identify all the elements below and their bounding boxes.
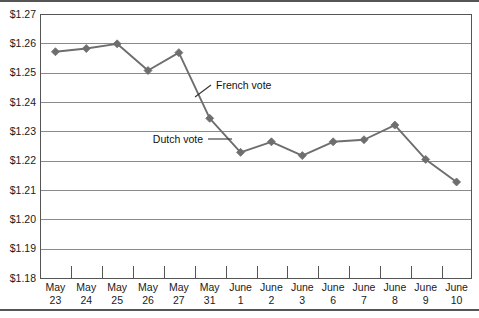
data-point-marker bbox=[360, 136, 368, 144]
x-tick-label-month: June bbox=[260, 281, 283, 293]
x-tick-label-day: 23 bbox=[50, 294, 62, 306]
data-point-marker bbox=[82, 45, 90, 53]
x-tick-label-month: May bbox=[200, 281, 221, 293]
y-tick-label: $1.25 bbox=[10, 66, 36, 78]
x-tick-label-day: 7 bbox=[361, 294, 367, 306]
y-axis-labels: $1.27 $1.26 $1.25 $1.24 $1.23 $1.22 $1.2… bbox=[10, 8, 36, 284]
y-tick-label: $1.18 bbox=[10, 272, 36, 284]
x-tick-label-month: June bbox=[353, 281, 376, 293]
x-tick-label-day: 25 bbox=[111, 294, 123, 306]
gridlines bbox=[40, 15, 472, 250]
x-tick-label-day: 6 bbox=[330, 294, 336, 306]
x-tick-label-day: 31 bbox=[204, 294, 216, 306]
data-point-marker bbox=[298, 152, 306, 160]
french-vote-label: French vote bbox=[216, 79, 272, 91]
data-point-marker bbox=[51, 48, 59, 56]
y-tick-label: $1.23 bbox=[10, 125, 36, 137]
y-tick-label: $1.22 bbox=[10, 154, 36, 166]
x-tick-label-month: June bbox=[445, 281, 468, 293]
data-point-marker bbox=[329, 138, 337, 146]
x-tick-label-month: June bbox=[414, 281, 437, 293]
y-tick-label: $1.24 bbox=[10, 96, 36, 108]
x-tick-label-day: 1 bbox=[238, 294, 244, 306]
y-tick-label: $1.26 bbox=[10, 37, 36, 49]
data-point-marker bbox=[175, 49, 183, 57]
x-tick-label-month: June bbox=[291, 281, 314, 293]
x-axis-ticks bbox=[72, 266, 442, 278]
x-tick-label-day: 27 bbox=[173, 294, 185, 306]
x-tick-label-month: June bbox=[229, 281, 252, 293]
x-tick-label-month: May bbox=[169, 281, 190, 293]
x-axis-labels: May23May24May25May26May27May31June1June2… bbox=[46, 281, 469, 306]
x-tick-label-month: May bbox=[138, 281, 159, 293]
y-tick-label: $1.27 bbox=[10, 8, 36, 20]
x-tick-label-month: June bbox=[383, 281, 406, 293]
y-tick-label: $1.19 bbox=[10, 242, 36, 254]
chart-figure: $1.27 $1.26 $1.25 $1.24 $1.23 $1.22 $1.2… bbox=[0, 0, 479, 318]
price-series bbox=[51, 40, 460, 186]
line-chart: $1.27 $1.26 $1.25 $1.24 $1.23 $1.22 $1.2… bbox=[0, 0, 479, 318]
x-tick-label-day: 10 bbox=[451, 294, 463, 306]
dutch-vote-label: Dutch vote bbox=[153, 133, 203, 145]
annotation-french-vote: French vote bbox=[195, 79, 272, 97]
x-tick-label-day: 26 bbox=[142, 294, 154, 306]
x-tick-label-month: May bbox=[76, 281, 97, 293]
y-tick-label: $1.20 bbox=[10, 213, 36, 225]
x-tick-label-day: 24 bbox=[80, 294, 92, 306]
x-tick-label-day: 9 bbox=[423, 294, 429, 306]
data-point-marker bbox=[267, 138, 275, 146]
annotation-dutch-vote: Dutch vote bbox=[153, 133, 232, 145]
x-tick-label-day: 2 bbox=[269, 294, 275, 306]
x-tick-label-day: 8 bbox=[392, 294, 398, 306]
y-tick-label: $1.21 bbox=[10, 184, 36, 196]
x-tick-label-month: June bbox=[322, 281, 345, 293]
x-tick-label-month: May bbox=[46, 281, 67, 293]
x-tick-label-month: May bbox=[107, 281, 128, 293]
x-tick-label-day: 3 bbox=[299, 294, 305, 306]
